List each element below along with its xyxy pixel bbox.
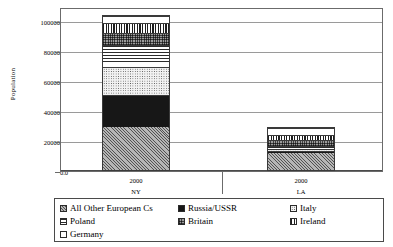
bar-segment-la-all-other-european-cs[interactable] — [268, 153, 334, 170]
bar-segment-la-germany[interactable] — [268, 128, 334, 135]
stacked-bar-chart: Population 1000000.0 800000.0 600000.0 4… — [0, 0, 393, 247]
category-label-la-year: 2000 — [261, 177, 341, 184]
horizontal-lines-swatch-icon — [60, 218, 67, 225]
bar-segment-ny-britain[interactable] — [103, 33, 169, 45]
legend-label-russia-ussr: Russia/USSR — [188, 203, 237, 214]
legend-label-germany: Germany — [70, 229, 104, 240]
bar-ny-2000[interactable] — [102, 15, 170, 171]
legend-label-all-other-european-cs: All Other European Cs — [70, 203, 153, 214]
bar-segment-ny-ireland[interactable] — [103, 23, 169, 33]
fine-dots-swatch-icon — [290, 205, 297, 212]
legend-label-ireland: Ireland — [300, 216, 325, 227]
legend-item-germany[interactable]: Germany — [60, 229, 178, 240]
category-group-separator — [222, 172, 223, 194]
legend-item-ireland[interactable]: Ireland — [290, 216, 378, 227]
y-tick-mark-0 — [55, 172, 60, 173]
category-label-ny-year: 2000 — [96, 177, 176, 184]
bar-segment-ny-poland[interactable] — [103, 45, 169, 67]
group-label-ny: NY — [96, 188, 176, 195]
checker-swatch-icon — [178, 218, 185, 225]
bar-segment-ny-italy[interactable] — [103, 67, 169, 95]
legend-item-italy[interactable]: Italy — [290, 203, 378, 214]
solid-black-swatch-icon — [178, 205, 185, 212]
legend-item-all-other-european-cs[interactable]: All Other European Cs — [60, 203, 178, 214]
vertical-lines-swatch-icon — [290, 218, 297, 225]
plot-area — [60, 8, 383, 172]
legend-item-britain[interactable]: Britain — [178, 216, 290, 227]
legend-item-russia-ussr[interactable]: Russia/USSR — [178, 203, 290, 214]
bar-segment-ny-germany[interactable] — [103, 16, 169, 23]
legend-item-poland[interactable]: Poland — [60, 216, 178, 227]
bar-segment-ny-all-other-european-cs[interactable] — [103, 127, 169, 170]
bar-la-2000[interactable] — [267, 127, 335, 171]
group-label-la: LA — [261, 188, 341, 195]
legend-label-poland: Poland — [70, 216, 95, 227]
legend-label-italy: Italy — [300, 203, 317, 214]
legend-label-britain: Britain — [188, 216, 213, 227]
bar-segment-ny-russia-ussr[interactable] — [103, 95, 169, 127]
white-swatch-icon — [60, 231, 67, 238]
chart-legend: All Other European Cs Russia/USSR Italy … — [54, 198, 384, 242]
diagonal-hatch-swatch-icon — [60, 205, 67, 212]
